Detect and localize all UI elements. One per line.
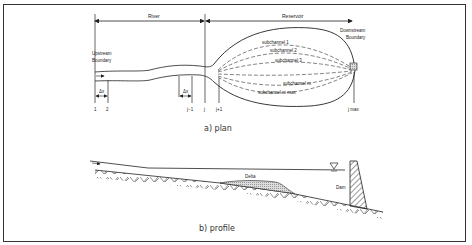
subchannel-m-label: subchannel m bbox=[283, 81, 311, 86]
subchannel-mmax-label: subchannel m max bbox=[258, 90, 297, 95]
dx-label-reservoir: Δx bbox=[183, 89, 189, 94]
downstream-boundary-label-2: Boundary bbox=[346, 35, 366, 40]
section-label-1: 1 bbox=[94, 107, 97, 112]
delta-label: Delta bbox=[245, 174, 256, 179]
downstream-boundary-label-1: Downstream bbox=[340, 28, 366, 33]
ground-hatch bbox=[95, 170, 383, 219]
river-bank-upper bbox=[95, 64, 214, 72]
river-bank-lower bbox=[95, 75, 214, 82]
water-level-symbol bbox=[330, 163, 338, 169]
section-label-j: j bbox=[203, 107, 205, 112]
subchannel-3-label: subchannel 3 bbox=[275, 58, 302, 63]
reservoir-bank-lower bbox=[214, 70, 355, 106]
water-surface-line bbox=[90, 161, 345, 170]
subchannel-2-label: subchannel 2 bbox=[270, 48, 297, 53]
upstream-boundary-label-2: Boundary bbox=[92, 58, 112, 63]
section-label-j-plus-1: j+1 bbox=[215, 107, 223, 112]
section-label-jmax: j max bbox=[347, 107, 360, 112]
reservoir-label: Reservoir bbox=[282, 13, 304, 19]
profile-caption: b) profile bbox=[199, 224, 235, 233]
diagram-canvas: River Reservoir Δx Δx 1 2 j−1 j j+1 j ma… bbox=[0, 0, 472, 245]
flow-arrow bbox=[92, 163, 100, 164]
section-label-j-minus-1: j−1 bbox=[186, 107, 194, 112]
plan-caption: a) plan bbox=[204, 124, 232, 133]
downstream-boundary-marker bbox=[350, 63, 357, 70]
subchannel-1-label: subchannel 1 bbox=[262, 40, 289, 45]
section-label-2: 2 bbox=[106, 107, 109, 112]
plan-view: River Reservoir Δx Δx 1 2 j−1 j j+1 j ma… bbox=[92, 13, 366, 133]
dam-label: Dam bbox=[336, 185, 346, 190]
dam-structure bbox=[350, 161, 367, 209]
river-label: River bbox=[148, 13, 160, 19]
upstream-boundary-label-1: Upstream bbox=[92, 51, 112, 56]
dx-label-upstream: Δx bbox=[99, 89, 105, 94]
profile-view: Delta Dam b) profile bbox=[90, 161, 383, 233]
